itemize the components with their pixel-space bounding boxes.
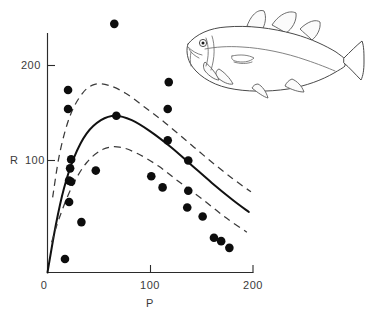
data-point [110,20,119,29]
stock-recruitment-plot: 200 100 0 100 200 R P [0,0,370,313]
cod-fish-illustration [187,11,364,98]
data-point [91,166,100,175]
figure-root: 200 100 0 100 200 R P [0,0,370,313]
fish-body [187,26,345,91]
y-axis-title: R [10,154,18,166]
x-tick-label-200: 200 [243,279,263,291]
data-point [67,177,76,186]
data-point [183,203,192,212]
lower-confidence-limit [52,147,247,243]
data-point [198,212,207,221]
fish-eye-pupil [202,42,205,45]
data-point [217,237,226,246]
data-point [66,164,75,173]
y-tick-label-200: 200 [21,59,41,71]
data-point [65,198,74,207]
fitted-stock-recruitment-curve [48,116,249,273]
x-tick-label-100: 100 [140,279,160,291]
data-point [112,111,121,120]
data-point [163,136,172,145]
data-point [164,78,173,87]
x-tick-label-0: 0 [41,279,48,291]
data-point [61,255,70,264]
data-point [158,183,167,192]
data-point [64,86,73,95]
y-tick-label-100: 100 [25,154,45,166]
data-point [184,186,193,195]
data-point [77,218,86,227]
x-axis-title: P [146,297,154,309]
data-point [225,244,234,253]
data-point [64,105,73,114]
data-point [184,156,193,165]
data-point [147,172,156,181]
data-point [67,155,76,164]
fish-caudal-fin [344,41,364,80]
data-point [163,105,172,114]
